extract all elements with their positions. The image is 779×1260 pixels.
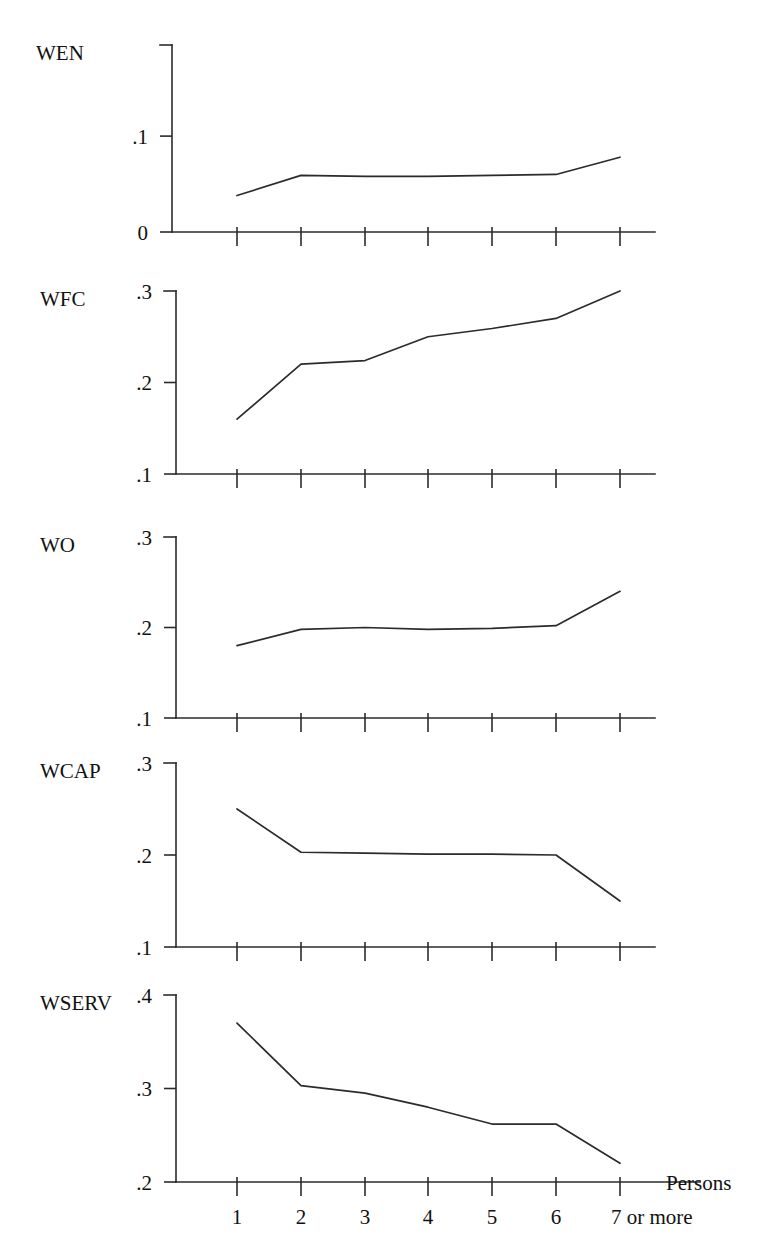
chart-panel-wo: .1.2.3WO: [40, 526, 655, 733]
x-tick-label: 4: [423, 1205, 434, 1229]
multi-panel-line-chart-figure: 0.1WEN.1.2.3WFC.1.2.3WO.1.2.3WCAP.2.3.4W…: [0, 0, 779, 1260]
y-tick-label: .2: [136, 1171, 152, 1195]
y-tick-label: .2: [136, 371, 152, 395]
chart-canvas: 0.1WEN.1.2.3WFC.1.2.3WO.1.2.3WCAP.2.3.4W…: [0, 0, 779, 1260]
data-series-line: [237, 591, 620, 645]
chart-panel-wserv: .2.3.4WSERV: [40, 984, 700, 1197]
data-series-line: [237, 1023, 620, 1163]
y-tick-label: .3: [136, 1077, 152, 1101]
y-tick-label: .3: [136, 526, 152, 550]
panel-label-wcap: WCAP: [40, 759, 101, 783]
x-axis-tick-labels: 1234567 or more: [232, 1205, 693, 1229]
data-series-line: [237, 157, 620, 195]
y-tick-label: .1: [136, 936, 152, 960]
x-tick-label: 3: [360, 1205, 371, 1229]
panel-label-wserv: WSERV: [40, 991, 112, 1015]
data-series-line: [237, 809, 620, 901]
chart-panel-wcap: .1.2.3WCAP: [40, 752, 655, 962]
y-tick-label: .2: [136, 616, 152, 640]
y-tick-label: .4: [136, 984, 152, 1008]
chart-panel-wen: 0.1WEN: [36, 41, 655, 246]
y-tick-label: .1: [136, 707, 152, 731]
y-tick-label: .1: [132, 125, 148, 149]
chart-panel-wfc: .1.2.3WFC: [40, 280, 655, 489]
x-tick-label: 1: [232, 1205, 243, 1229]
x-tick-label: 5: [487, 1205, 498, 1229]
x-tick-label: 6: [551, 1205, 562, 1229]
x-tick-label: 7 or more: [611, 1205, 693, 1229]
panel-label-wo: WO: [40, 533, 75, 557]
y-tick-label: 0: [138, 221, 149, 245]
panel-label-wfc: WFC: [40, 287, 86, 311]
data-series-line: [237, 291, 620, 419]
x-tick-label: 2: [296, 1205, 307, 1229]
y-tick-label: .3: [136, 752, 152, 776]
panel-label-wen: WEN: [36, 41, 84, 65]
y-tick-label: .2: [136, 844, 152, 868]
y-tick-label: .3: [136, 280, 152, 304]
x-axis-name: Persons: [666, 1171, 731, 1195]
y-tick-label: .1: [136, 463, 152, 487]
